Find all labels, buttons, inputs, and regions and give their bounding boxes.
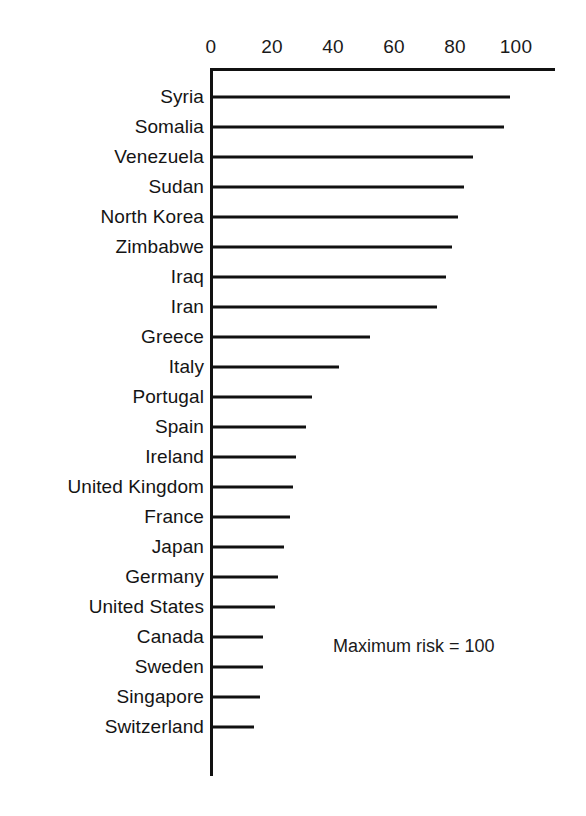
bar-switzerland xyxy=(211,726,254,729)
category-label-switzerland: Switzerland xyxy=(105,717,204,737)
bar-row: Zimbabwe xyxy=(0,232,586,262)
category-label-italy: Italy xyxy=(169,357,204,377)
bar-row: France xyxy=(0,502,586,532)
bar-rows: SyriaSomaliaVenezuelaSudanNorth KoreaZim… xyxy=(0,0,586,816)
bar-united-kingdom xyxy=(211,486,293,489)
category-label-united-kingdom: United Kingdom xyxy=(67,477,204,497)
category-label-united-states: United States xyxy=(89,597,204,617)
category-label-syria: Syria xyxy=(160,87,204,107)
bar-row: Greece xyxy=(0,322,586,352)
bar-row: Iran xyxy=(0,292,586,322)
category-label-ireland: Ireland xyxy=(145,447,204,467)
category-label-germany: Germany xyxy=(125,567,204,587)
bar-japan xyxy=(211,546,284,549)
bar-row: Ireland xyxy=(0,442,586,472)
category-label-france: France xyxy=(144,507,204,527)
bar-greece xyxy=(211,336,370,339)
bar-ireland xyxy=(211,456,296,459)
bar-row: Portugal xyxy=(0,382,586,412)
bar-iran xyxy=(211,306,437,309)
bar-row: Canada xyxy=(0,622,586,652)
bar-row: Italy xyxy=(0,352,586,382)
bar-row: Sweden xyxy=(0,652,586,682)
bar-sudan xyxy=(211,186,464,189)
bar-spain xyxy=(211,426,306,429)
bar-italy xyxy=(211,366,339,369)
bar-row: Germany xyxy=(0,562,586,592)
bar-row: Spain xyxy=(0,412,586,442)
bar-singapore xyxy=(211,696,260,699)
bar-syria xyxy=(211,96,510,99)
bar-sweden xyxy=(211,666,263,669)
category-label-sudan: Sudan xyxy=(149,177,204,197)
category-label-iran: Iran xyxy=(171,297,204,317)
bar-venezuela xyxy=(211,156,473,159)
category-label-greece: Greece xyxy=(141,327,204,347)
category-label-iraq: Iraq xyxy=(171,267,204,287)
bar-row: United Kingdom xyxy=(0,472,586,502)
bar-germany xyxy=(211,576,278,579)
category-label-portugal: Portugal xyxy=(132,387,204,407)
bar-row: Venezuela xyxy=(0,142,586,172)
bar-row: Switzerland xyxy=(0,712,586,742)
bar-north-korea xyxy=(211,216,458,219)
category-label-somalia: Somalia xyxy=(135,117,204,137)
bar-portugal xyxy=(211,396,312,399)
bar-row: Syria xyxy=(0,82,586,112)
bar-iraq xyxy=(211,276,446,279)
category-label-japan: Japan xyxy=(152,537,204,557)
category-label-zimbabwe: Zimbabwe xyxy=(116,237,204,257)
category-label-singapore: Singapore xyxy=(116,687,204,707)
chart-container: 020406080100 SyriaSomaliaVenezuelaSudanN… xyxy=(0,0,586,816)
bar-canada xyxy=(211,636,263,639)
bar-somalia xyxy=(211,126,504,129)
bar-zimbabwe xyxy=(211,246,452,249)
bar-row: Japan xyxy=(0,532,586,562)
chart-annotation: Maximum risk = 100 xyxy=(333,636,495,657)
category-label-canada: Canada xyxy=(137,627,204,647)
category-label-spain: Spain xyxy=(155,417,204,437)
bar-row: North Korea xyxy=(0,202,586,232)
bar-row: Sudan xyxy=(0,172,586,202)
category-label-venezuela: Venezuela xyxy=(114,147,204,167)
bar-row: Somalia xyxy=(0,112,586,142)
bar-row: United States xyxy=(0,592,586,622)
bar-row: Singapore xyxy=(0,682,586,712)
bar-france xyxy=(211,516,290,519)
category-label-sweden: Sweden xyxy=(135,657,204,677)
bar-united-states xyxy=(211,606,275,609)
bar-row: Iraq xyxy=(0,262,586,292)
category-label-north-korea: North Korea xyxy=(100,207,204,227)
